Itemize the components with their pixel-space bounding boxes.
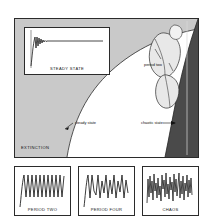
waveform-panel-row: PERIOD TWO PERIOD FOUR CHAOS	[14, 166, 199, 216]
waveform-caption-period-two: PERIOD TWO	[15, 207, 70, 212]
bifurcation-figure: STEADY STATE EXTINCTION steady state cha…	[0, 0, 213, 223]
waveform-panel-period-two: PERIOD TWO	[14, 166, 71, 216]
period-two-trace	[20, 175, 64, 207]
waveform-panel-period-four: PERIOD FOUR	[78, 166, 135, 216]
period-eight-bubble	[170, 25, 183, 39]
waveform-panel-chaos: CHAOS	[142, 166, 199, 216]
period-four-bubble	[156, 75, 179, 108]
period-four-trace	[84, 175, 128, 207]
label-extinction: EXTINCTION	[21, 145, 49, 150]
label-chaotic-state: chaotic state	[141, 120, 163, 125]
waveform-caption-period-four: PERIOD FOUR	[79, 207, 134, 212]
label-steady-state: steady state	[75, 120, 96, 125]
inset-trace	[31, 37, 103, 66]
label-period-two: period two	[144, 62, 162, 67]
chaos-trace	[147, 173, 192, 203]
phase-diagram-panel: STEADY STATE EXTINCTION steady state cha…	[14, 18, 199, 158]
inset-caption: STEADY STATE	[25, 66, 109, 71]
steady-state-inset-panel: STEADY STATE	[24, 27, 110, 75]
waveform-caption-chaos: CHAOS	[143, 207, 198, 212]
